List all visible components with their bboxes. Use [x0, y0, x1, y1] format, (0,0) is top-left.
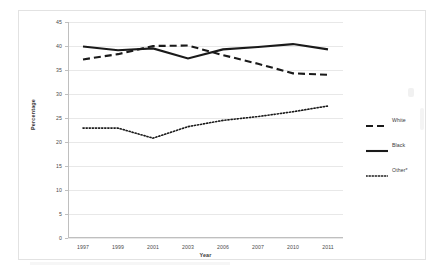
series-lines [68, 22, 343, 238]
y-tick-label: 35 [56, 67, 62, 73]
x-tick-label: 2007 [252, 244, 264, 250]
y-tick-label: 45 [56, 19, 62, 25]
legend-label: Black [392, 142, 405, 148]
scan-artifact [30, 262, 230, 265]
y-tick-label: 40 [56, 43, 62, 49]
x-tick-label: 2001 [147, 244, 159, 250]
chart-legend: WhiteBlackOther* [366, 115, 438, 190]
y-tick-mark [65, 238, 68, 239]
legend-item-other[interactable]: Other* [366, 165, 438, 174]
y-axis-title: Percentage [30, 99, 36, 130]
x-tick-label: 2010 [287, 244, 299, 250]
legend-label: Other* [392, 167, 408, 173]
x-axis-title: Year [68, 252, 343, 258]
x-tick-label: 2003 [182, 244, 194, 250]
y-tick-label: 10 [56, 187, 62, 193]
y-tick-label: 5 [59, 211, 62, 217]
x-tick-label: 1999 [112, 244, 124, 250]
y-tick-label: 0 [59, 235, 62, 241]
legend-swatch-dotted-icon [366, 166, 388, 174]
legend-swatch-dashed-icon [366, 116, 388, 124]
series-line-other [83, 106, 328, 138]
legend-item-white[interactable]: White [366, 115, 438, 124]
y-tick-label: 15 [56, 163, 62, 169]
y-tick-label: 20 [56, 139, 62, 145]
x-tick-label: 2011 [322, 244, 334, 250]
y-tick-label: 30 [56, 91, 62, 97]
x-tick-label: 1997 [77, 244, 89, 250]
gridline [68, 238, 343, 239]
x-tick-label: 2006 [217, 244, 229, 250]
y-tick-label: 25 [56, 115, 62, 121]
legend-item-black[interactable]: Black [366, 140, 438, 149]
legend-swatch-solid-icon [366, 141, 388, 149]
plot-area: 051015202530354045 199719992001200320062… [68, 22, 343, 238]
chart-figure: 051015202530354045 199719992001200320062… [0, 0, 445, 278]
legend-label: White [392, 117, 406, 123]
